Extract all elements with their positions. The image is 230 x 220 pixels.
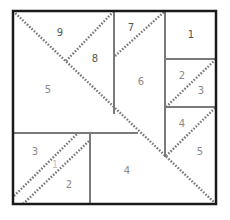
label-piece-4-bottom: 4 — [124, 165, 130, 176]
label-piece-6: 6 — [138, 76, 144, 87]
label-piece-5-left: 5 — [45, 84, 51, 95]
label-piece-9: 9 — [57, 27, 63, 38]
label-piece-1-strip: 1 — [52, 159, 58, 170]
quilt-diagram: 9 8 7 1 5 6 2 3 4 5 3 1 2 4 — [0, 0, 230, 220]
label-piece-8: 8 — [92, 53, 98, 64]
label-piece-7: 7 — [128, 22, 134, 33]
label-piece-1-top: 1 — [188, 29, 194, 40]
label-piece-4-right: 4 — [179, 118, 185, 129]
label-piece-2-left: 2 — [66, 179, 72, 190]
label-piece-3-right: 3 — [198, 85, 204, 96]
label-piece-2-right: 2 — [179, 70, 185, 81]
label-piece-5-right: 5 — [197, 146, 203, 157]
label-piece-3-left: 3 — [32, 146, 38, 157]
